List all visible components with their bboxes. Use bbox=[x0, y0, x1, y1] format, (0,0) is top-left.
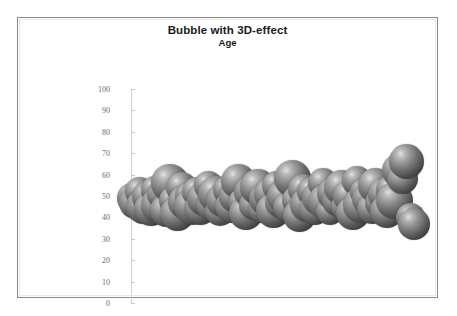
chart-subtitle: Age bbox=[18, 37, 437, 49]
y-tick-label: 10 bbox=[102, 277, 110, 286]
y-tick-label: 90 bbox=[102, 106, 110, 115]
bubble-marker bbox=[398, 208, 430, 240]
y-tick-label: 60 bbox=[102, 170, 110, 179]
y-tick-label: 20 bbox=[102, 256, 110, 265]
chart-frame: Bubble with 3D-effect Age 01020304050607… bbox=[17, 17, 438, 298]
title-block: Bubble with 3D-effect Age bbox=[18, 23, 437, 49]
y-tick-label: 80 bbox=[102, 127, 110, 136]
bubble-marker bbox=[389, 144, 424, 179]
plot-area: 0102030405060708090100 bbox=[114, 72, 434, 307]
y-tick-label: 70 bbox=[102, 149, 110, 158]
y-tick-label: 0 bbox=[106, 299, 110, 308]
y-tick-label: 30 bbox=[102, 234, 110, 243]
y-tick-label: 100 bbox=[98, 85, 110, 94]
y-tick-label: 50 bbox=[102, 192, 110, 201]
y-tick-label: 40 bbox=[102, 213, 110, 222]
bubble-series-age bbox=[114, 72, 434, 307]
chart-title: Bubble with 3D-effect bbox=[18, 23, 437, 37]
